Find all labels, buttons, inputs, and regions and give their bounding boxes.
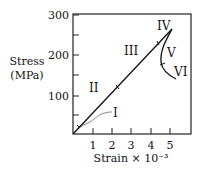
- y-axis-label-line1: Stress: [9, 55, 44, 68]
- label-segment-vi: VI: [173, 65, 188, 79]
- label-segment-v: V: [166, 46, 176, 60]
- label-segment-i: I: [113, 106, 118, 120]
- x-axis-label: Strain × 10⁻³: [94, 152, 169, 165]
- label-segment-ii: II: [89, 81, 99, 95]
- curve-main-linear: [73, 29, 172, 134]
- y-tick-label-100: 100: [48, 90, 69, 103]
- y-tick-label-300: 300: [48, 9, 69, 22]
- x-tick-label-1: 1: [90, 139, 97, 152]
- x-axis-ticks: [93, 128, 170, 134]
- y-tick-label-200: 200: [48, 49, 69, 62]
- stress-strain-chart: 300 200 100 1 2 3 4 5 Strain × 10⁻³ Stre…: [0, 0, 198, 171]
- x-tick-label-2: 2: [109, 139, 116, 152]
- x-tick-label-5: 5: [167, 139, 174, 152]
- x-tick-label-4: 4: [148, 139, 155, 152]
- x-tick-label-3: 3: [128, 139, 135, 152]
- label-segment-iv: IV: [157, 19, 171, 33]
- y-axis-ticks: [73, 15, 79, 115]
- y-axis-label-line2: (MPa): [10, 69, 43, 82]
- label-segment-iii: III: [124, 44, 138, 58]
